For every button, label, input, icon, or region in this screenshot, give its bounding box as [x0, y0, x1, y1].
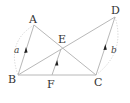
- geometry-diagram: A B C D E F a b: [0, 0, 130, 103]
- label-vector-a: a: [14, 45, 19, 55]
- label-point-d: D: [111, 4, 120, 17]
- label-point-b: B: [8, 73, 16, 86]
- label-point-c: C: [94, 76, 102, 89]
- label-point-e: E: [58, 33, 66, 46]
- label-point-a: A: [28, 13, 38, 26]
- label-vector-b: b: [111, 45, 117, 55]
- label-point-f: F: [47, 78, 55, 91]
